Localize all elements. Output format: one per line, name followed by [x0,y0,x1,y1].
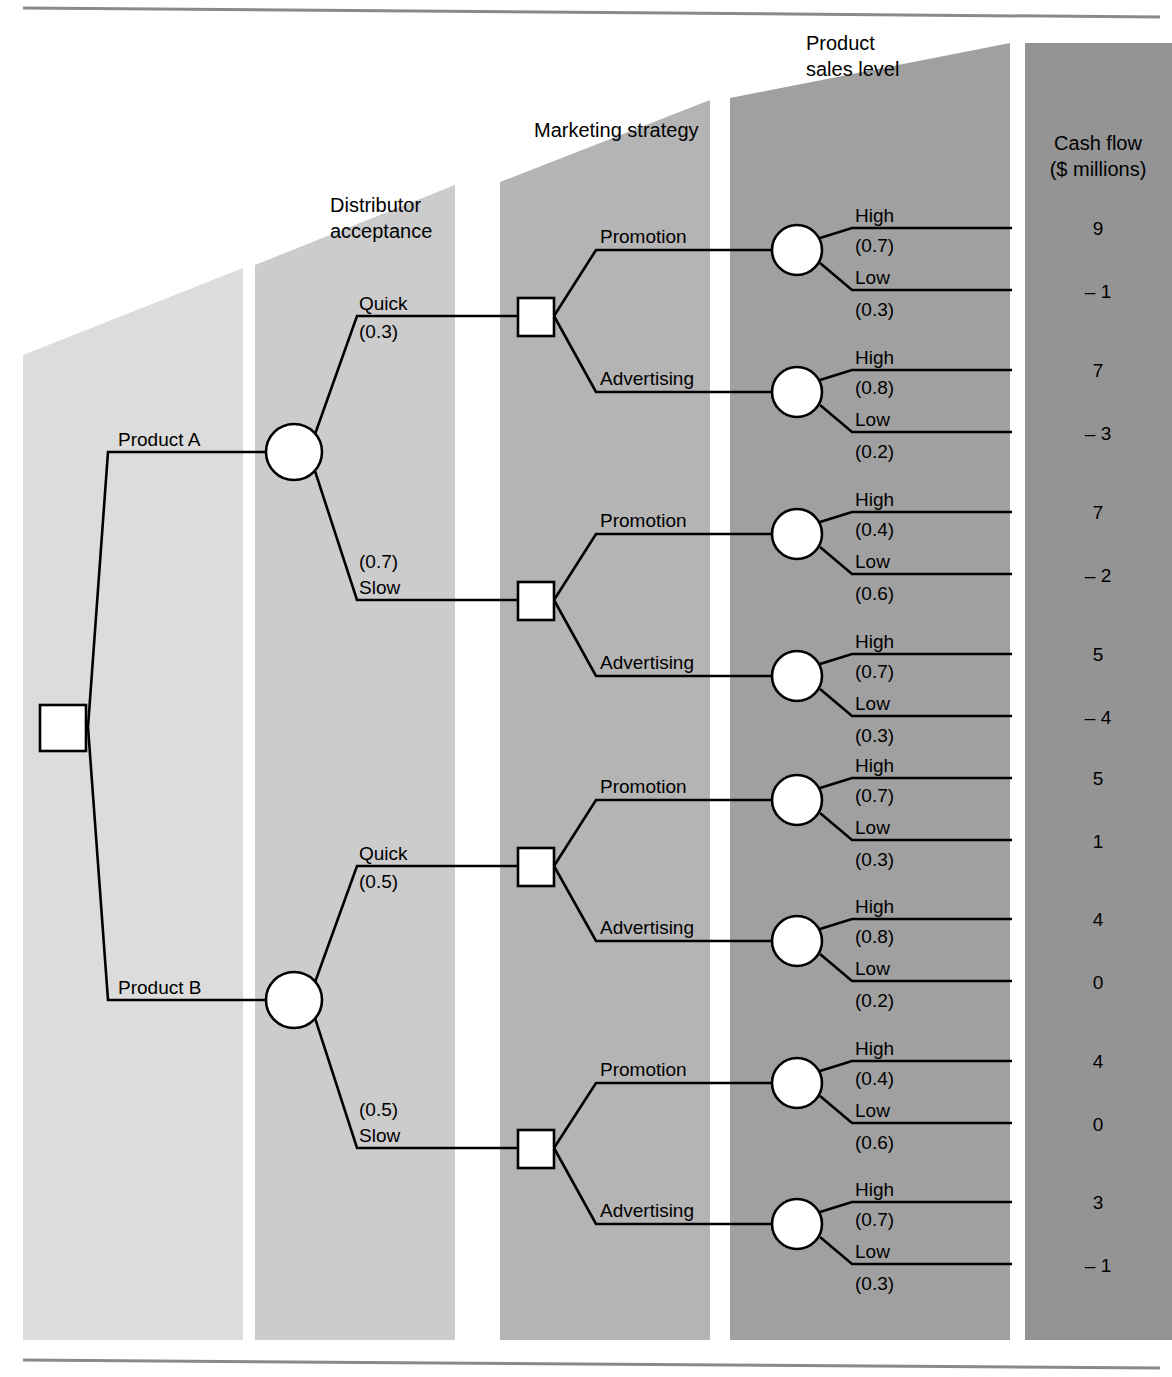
sales-high-prob-3: (0.4) [855,519,894,540]
branch-label-product-b: Product B [118,977,201,998]
chance-node-product-b[interactable] [266,972,322,1028]
cash-flow-value-13: 4 [1093,1051,1104,1072]
chance-node-product-a[interactable] [266,424,322,480]
cash-flow-value-4: – 3 [1085,423,1111,444]
band-title-product-sales-level-line1: Product [806,32,875,54]
sales-low-prob-3: (0.6) [855,583,894,604]
sales-high-label-6: High [855,896,894,917]
branch-prob-b-slow: (0.5) [359,1099,398,1120]
sales-low-prob-2: (0.2) [855,441,894,462]
sales-low-label-8: Low [855,1241,890,1262]
sales-high-label-3: High [855,489,894,510]
tree-canvas: Distributor acceptance Marketing strateg… [0,0,1172,1377]
chance-node-sales-7[interactable] [772,1058,822,1108]
branch-label-strategy-2: Advertising [600,368,694,389]
chance-node-sales-1[interactable] [772,225,822,275]
sales-low-label-6: Low [855,958,890,979]
sales-low-label-3: Low [855,551,890,572]
branch-label-strategy-5: Promotion [600,776,687,797]
bottom-rule [23,1360,1160,1368]
branch-label-strategy-1: Promotion [600,226,687,247]
branch-label-strategy-8: Advertising [600,1200,694,1221]
band-title-distributor-acceptance-line2: acceptance [330,220,432,242]
cash-flow-value-5: 7 [1093,502,1104,523]
branch-prob-a-slow: (0.7) [359,551,398,572]
band-title-distributor-acceptance-line1: Distributor [330,194,421,216]
band-title-marketing-strategy: Marketing strategy [534,119,699,141]
sales-low-prob-1: (0.3) [855,299,894,320]
sales-low-prob-4: (0.3) [855,725,894,746]
cash-flow-value-7: 5 [1093,644,1104,665]
stage-bands [23,43,1172,1340]
top-rule [23,8,1160,17]
decision-node-b-slow[interactable] [518,1130,554,1168]
sales-low-label-5: Low [855,817,890,838]
branch-label-product-a: Product A [118,429,201,450]
sales-high-label-5: High [855,755,894,776]
cash-flow-value-6: – 2 [1085,565,1111,586]
sales-low-prob-5: (0.3) [855,849,894,870]
cash-flow-value-10: 1 [1093,831,1104,852]
decision-node-a-slow[interactable] [518,582,554,620]
sales-high-label-8: High [855,1179,894,1200]
cash-flow-value-12: 0 [1093,972,1104,993]
branch-label-b-slow: Slow [359,1125,400,1146]
chance-node-sales-5[interactable] [772,775,822,825]
chance-node-sales-3[interactable] [772,509,822,559]
sales-low-prob-8: (0.3) [855,1273,894,1294]
sales-low-label-1: Low [855,267,890,288]
sales-high-label-7: High [855,1038,894,1059]
sales-low-prob-7: (0.6) [855,1132,894,1153]
cash-flow-value-8: – 4 [1085,707,1112,728]
branch-label-strategy-3: Promotion [600,510,687,531]
branch-label-a-quick: Quick [359,293,408,314]
sales-low-prob-6: (0.2) [855,990,894,1011]
branch-label-strategy-4: Advertising [600,652,694,673]
decision-tree-figure: Distributor acceptance Marketing strateg… [0,0,1172,1377]
branch-label-b-quick: Quick [359,843,408,864]
sales-high-prob-7: (0.4) [855,1068,894,1089]
sales-low-label-4: Low [855,693,890,714]
cash-flow-value-14: 0 [1093,1114,1104,1135]
cash-flow-value-15: 3 [1093,1192,1104,1213]
sales-high-prob-4: (0.7) [855,661,894,682]
sales-high-prob-1: (0.7) [855,235,894,256]
branch-label-a-slow: Slow [359,577,400,598]
branch-prob-a-quick: (0.3) [359,321,398,342]
decision-node-b-quick[interactable] [518,848,554,886]
sales-high-prob-6: (0.8) [855,926,894,947]
chance-node-sales-2[interactable] [772,367,822,417]
sales-high-prob-8: (0.7) [855,1209,894,1230]
chance-node-sales-4[interactable] [772,651,822,701]
chance-node-sales-6[interactable] [772,916,822,966]
branch-prob-b-quick: (0.5) [359,871,398,892]
cash-flow-value-2: – 1 [1085,281,1111,302]
cash-flow-value-11: 4 [1093,909,1104,930]
cash-flow-value-1: 9 [1093,218,1104,239]
sales-high-label-1: High [855,205,894,226]
sales-high-label-2: High [855,347,894,368]
sales-high-label-4: High [855,631,894,652]
decision-node-root[interactable] [40,705,86,751]
cash-flow-value-16: – 1 [1085,1255,1111,1276]
sales-low-label-7: Low [855,1100,890,1121]
band-distributor-acceptance [255,185,455,1340]
chance-node-sales-8[interactable] [772,1199,822,1249]
sales-high-prob-2: (0.8) [855,377,894,398]
branch-label-strategy-7: Promotion [600,1059,687,1080]
sales-low-label-2: Low [855,409,890,430]
band-title-product-sales-level-line2: sales level [806,58,899,80]
cash-flow-value-3: 7 [1093,360,1104,381]
branch-label-strategy-6: Advertising [600,917,694,938]
band-title-cash-flow-line1: Cash flow [1054,132,1142,154]
cash-flow-value-9: 5 [1093,768,1104,789]
band-title-cash-flow-line2: ($ millions) [1050,158,1147,180]
decision-node-a-quick[interactable] [518,298,554,336]
sales-high-prob-5: (0.7) [855,785,894,806]
